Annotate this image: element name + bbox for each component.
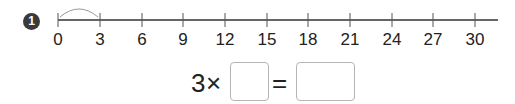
tick-label: 12 bbox=[216, 30, 235, 50]
tick-label: 30 bbox=[466, 30, 485, 50]
equation: 3 × = bbox=[0, 62, 515, 104]
tick-label: 27 bbox=[424, 30, 443, 50]
multiplicand: 3 bbox=[191, 68, 205, 98]
equals-sign: = bbox=[272, 68, 287, 98]
tick-label: 3 bbox=[95, 30, 104, 50]
tick-label: 0 bbox=[53, 30, 62, 50]
times-sign: × bbox=[206, 68, 221, 98]
tick-label: 15 bbox=[258, 30, 277, 50]
tick-label: 18 bbox=[299, 30, 318, 50]
tick-label: 24 bbox=[383, 30, 402, 50]
tick-label: 6 bbox=[137, 30, 146, 50]
tick-label: 9 bbox=[178, 30, 187, 50]
answer-box-product[interactable] bbox=[296, 62, 355, 101]
answer-box-multiplier[interactable] bbox=[230, 62, 269, 101]
tick-label: 21 bbox=[341, 30, 360, 50]
jump-arc bbox=[60, 9, 98, 17]
